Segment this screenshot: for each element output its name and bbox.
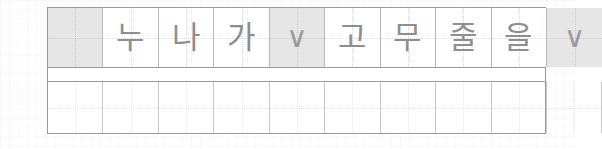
character-cell[interactable]: 나 [159, 8, 214, 67]
practice-cell[interactable] [214, 82, 269, 133]
cell-guide-horizontal-icon [381, 108, 435, 109]
syllable-glyph: 나 [172, 22, 201, 53]
practice-cell[interactable] [547, 82, 602, 133]
spacer-row [47, 67, 546, 82]
cell-guide-vertical-icon [242, 82, 243, 133]
cell-guide-horizontal-icon [547, 108, 601, 109]
cell-guide-vertical-icon [131, 82, 132, 133]
syllable-glyph: 누 [116, 22, 145, 53]
cell-guide-vertical-icon [297, 82, 298, 133]
characters-row: 누나가∨고무줄을∨ [47, 7, 546, 68]
syllable-glyph: 가 [227, 22, 256, 53]
cell-guide-horizontal-icon [270, 108, 324, 109]
character-cell[interactable]: 줄 [436, 8, 491, 67]
cell-guide-vertical-icon [408, 82, 409, 133]
syllable-glyph: 줄 [449, 22, 478, 53]
cell-guide-horizontal-icon [436, 108, 490, 109]
space-mark-glyph: ∨ [564, 23, 585, 52]
cell-guide-vertical-icon [75, 8, 76, 67]
cell-guide-horizontal-icon [325, 108, 379, 109]
character-cell[interactable] [48, 8, 103, 67]
character-cell[interactable]: ∨ [547, 8, 602, 67]
character-cell[interactable]: 누 [103, 8, 158, 67]
syllable-glyph: 을 [504, 22, 533, 53]
practice-cell[interactable] [492, 82, 547, 133]
cell-guide-horizontal-icon [159, 108, 213, 109]
cell-guide-vertical-icon [75, 82, 76, 133]
practice-cell[interactable] [103, 82, 158, 133]
cell-guide-horizontal-icon [48, 108, 102, 109]
cell-guide-vertical-icon [574, 82, 575, 133]
practice-cell[interactable] [436, 82, 491, 133]
cell-guide-horizontal-icon [48, 38, 102, 39]
cell-guide-vertical-icon [186, 82, 187, 133]
cell-guide-horizontal-icon [492, 108, 546, 109]
practice-row [47, 81, 546, 134]
space-mark-glyph: ∨ [286, 23, 307, 52]
character-cell[interactable]: 을 [492, 8, 547, 67]
syllable-glyph: 무 [393, 22, 422, 53]
cell-guide-vertical-icon [352, 82, 353, 133]
practice-cell[interactable] [381, 82, 436, 133]
cell-guide-vertical-icon [463, 82, 464, 133]
spacer-cell [48, 68, 545, 81]
cell-guide-vertical-icon [519, 82, 520, 133]
cell-guide-horizontal-icon [214, 108, 268, 109]
syllable-glyph: 고 [338, 22, 367, 53]
practice-cell[interactable] [325, 82, 380, 133]
character-cell[interactable]: 가 [214, 8, 269, 67]
practice-cell[interactable] [159, 82, 214, 133]
practice-cell[interactable] [270, 82, 325, 133]
character-cell[interactable]: 고 [325, 8, 380, 67]
cell-guide-horizontal-icon [103, 108, 157, 109]
character-cell[interactable]: 무 [381, 8, 436, 67]
manuscript-grid: 누나가∨고무줄을∨ [47, 7, 546, 134]
character-cell[interactable]: ∨ [270, 8, 325, 67]
practice-cell[interactable] [48, 82, 103, 133]
